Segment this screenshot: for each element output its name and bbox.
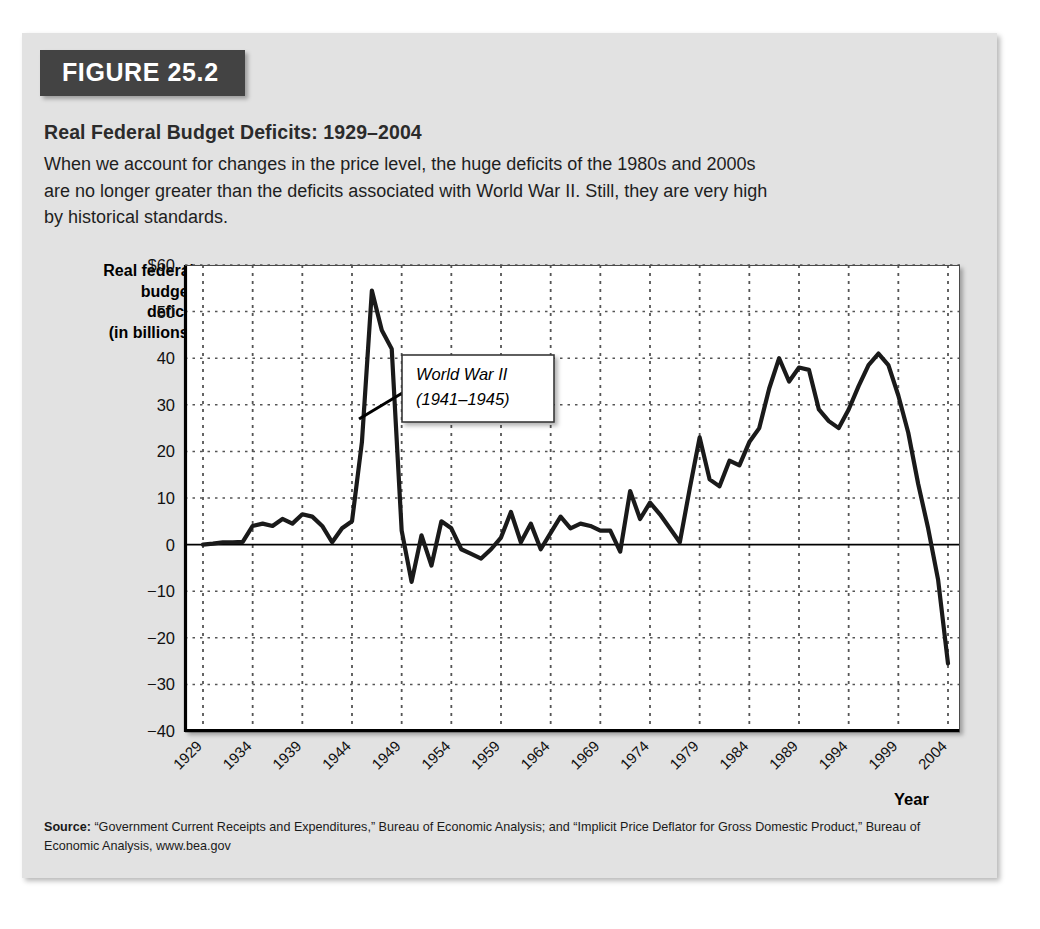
x-axis-tick-labels: 1929193419391944194919541959196419691974… xyxy=(170,737,951,773)
figure-card: FIGURE 25.2 Real Federal Budget Deficits… xyxy=(22,33,997,878)
y-axis-tick-labels: −40−30−20−1001020304050$60 xyxy=(147,256,175,740)
y-axis-tick-label: −20 xyxy=(147,629,175,647)
x-axis-tick-label: 1974 xyxy=(617,737,653,773)
y-axis-tick-label: 50 xyxy=(157,303,175,321)
y-axis-tick-label: −30 xyxy=(147,675,175,693)
x-axis-tick-label: 1994 xyxy=(815,737,851,773)
x-axis-tick-label: 1939 xyxy=(269,737,305,773)
x-axis-tick-label: 2004 xyxy=(915,737,951,773)
source-label: Source: xyxy=(44,820,91,834)
y-axis-tick-label: $60 xyxy=(147,256,175,274)
plot-panel xyxy=(185,265,960,732)
source-text: “Government Current Receipts and Expendi… xyxy=(44,820,920,853)
source-note: Source: “Government Current Receipts and… xyxy=(44,818,959,856)
line-chart: −40−30−20−1001020304050$60 1929193419391… xyxy=(22,33,997,878)
x-axis-tick-label: 1979 xyxy=(666,737,702,773)
y-axis-tick-label: 40 xyxy=(157,349,175,367)
x-axis-tick-label: 1969 xyxy=(567,737,603,773)
y-axis-tick-label: 20 xyxy=(157,442,175,460)
x-axis-tick-label: 1959 xyxy=(468,737,504,773)
x-axis-tick-label: 1954 xyxy=(418,737,454,773)
y-axis-tick-label: 30 xyxy=(157,396,175,414)
x-axis-tick-label: 1964 xyxy=(517,737,553,773)
x-axis-tick-label: 1934 xyxy=(219,737,255,773)
annotation-line-1: World War II xyxy=(416,365,508,383)
x-axis-tick-label: 1929 xyxy=(170,737,206,773)
y-axis-tick-label: −40 xyxy=(147,722,175,740)
y-axis-tick-label: 0 xyxy=(166,536,175,554)
annotation-line-2: (1941–1945) xyxy=(416,390,510,408)
y-axis-tick-label: 10 xyxy=(157,489,175,507)
x-axis-tick-label: 1984 xyxy=(716,737,752,773)
x-axis-tick-label: 1999 xyxy=(865,737,901,773)
y-axis-tick-label: −10 xyxy=(147,582,175,600)
figure-page: FIGURE 25.2 Real Federal Budget Deficits… xyxy=(0,0,1040,929)
x-axis-tick-label: 1949 xyxy=(368,737,404,773)
x-axis-tick-label: 1989 xyxy=(766,737,802,773)
x-axis-tick-label: 1944 xyxy=(319,737,355,773)
